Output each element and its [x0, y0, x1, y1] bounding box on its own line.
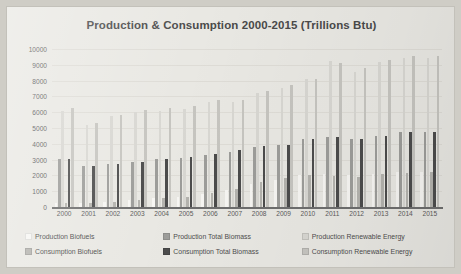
- bar-2011-consumption-renewable-energy: [339, 63, 342, 207]
- bar-2006-production-biofuels: [201, 194, 204, 207]
- y-axis-tick-0: 0: [43, 204, 47, 211]
- bar-2002-consumption-total-biomass: [117, 164, 120, 207]
- bar-2007-consumption-total-biomass: [238, 150, 241, 207]
- x-axis-tick-2009: 2009: [271, 210, 295, 224]
- x-axis-tick-2003: 2003: [125, 210, 149, 224]
- bar-2012-consumption-renewable-energy: [364, 68, 367, 207]
- x-axis-tick-2008: 2008: [247, 210, 271, 224]
- bar-2010-consumption-biofuels: [308, 175, 311, 207]
- bar-2003-production-renewable-energy: [134, 112, 137, 207]
- bar-group-2002: [101, 49, 125, 207]
- bar-2006-consumption-biofuels: [211, 193, 214, 207]
- bar-2011-production-renewable-energy: [329, 61, 332, 207]
- bar-2002-production-renewable-energy: [110, 116, 113, 207]
- bar-2013-consumption-biofuels: [381, 174, 384, 207]
- legend-swatch-icon: [25, 233, 32, 240]
- legend-label: Consumption Renewable Energy: [312, 248, 413, 255]
- legend-swatch-icon: [302, 233, 309, 240]
- bar-group-2006: [198, 49, 222, 207]
- bar-2004-consumption-total-biomass: [165, 159, 168, 207]
- bar-2015-consumption-renewable-energy: [437, 56, 440, 207]
- x-axis-tick-2001: 2001: [76, 210, 100, 224]
- bar-2011-consumption-total-biomass: [336, 137, 339, 207]
- bar-2000-production-total-biomass: [58, 159, 61, 207]
- bar-2009-consumption-biofuels: [284, 178, 287, 207]
- bar-2013-consumption-total-biomass: [385, 136, 388, 207]
- bar-2009-production-renewable-energy: [281, 88, 284, 207]
- y-axis-tick-5000: 5000: [32, 125, 47, 132]
- legend-label: Consumption Biofuels: [35, 248, 102, 255]
- y-axis-tick-1000: 1000: [32, 188, 47, 195]
- bar-2006-production-renewable-energy: [208, 102, 211, 207]
- bar-2005-production-total-biomass: [180, 158, 183, 207]
- bar-2015-production-total-biomass: [424, 132, 427, 207]
- bar-2015-consumption-total-biomass: [433, 132, 436, 207]
- bar-2008-consumption-total-biomass: [263, 146, 266, 207]
- legend-swatch-icon: [25, 248, 32, 255]
- legend-item-production-biofuels[interactable]: Production Biofuels: [25, 233, 163, 240]
- bar-2009-production-total-biomass: [277, 145, 280, 207]
- bar-2008-consumption-biofuels: [260, 182, 263, 207]
- bar-2015-consumption-biofuels: [430, 172, 433, 207]
- bar-group-2011: [320, 49, 344, 207]
- y-axis-tick-3000: 3000: [32, 156, 47, 163]
- bar-2006-consumption-renewable-energy: [217, 100, 220, 207]
- bar-2015-production-renewable-energy: [427, 58, 430, 207]
- bar-2005-consumption-renewable-energy: [193, 106, 196, 207]
- legend-item-production-total-biomass[interactable]: Production Total Biomass: [163, 233, 301, 240]
- bar-2012-production-biofuels: [347, 175, 350, 207]
- bar-2014-consumption-total-biomass: [409, 132, 412, 207]
- legend-row-production: Production BiofuelsProduction Total Biom…: [25, 229, 440, 244]
- legend-item-consumption-biofuels[interactable]: Consumption Biofuels: [25, 248, 163, 255]
- bar-2005-production-renewable-energy: [183, 109, 186, 207]
- x-axis-tick-labels: 2000200120022003200420052006200720082009…: [52, 210, 442, 224]
- legend-row-consumption: Consumption BiofuelsConsumption Total Bi…: [25, 244, 440, 259]
- bar-2002-production-total-biomass: [107, 164, 110, 207]
- bar-2010-production-biofuels: [298, 175, 301, 207]
- x-axis-tick-2007: 2007: [223, 210, 247, 224]
- x-axis-line: [52, 207, 443, 209]
- x-axis-tick-2006: 2006: [198, 210, 222, 224]
- x-axis-tick-2002: 2002: [101, 210, 125, 224]
- bar-2006-production-total-biomass: [204, 155, 207, 207]
- bar-2008-production-total-biomass: [253, 147, 256, 208]
- bar-group-2009: [271, 49, 295, 207]
- y-axis-tick-7000: 7000: [32, 93, 47, 100]
- legend-label: Consumption Total Biomass: [173, 248, 258, 255]
- bar-2014-production-biofuels: [396, 172, 399, 207]
- bar-2011-production-biofuels: [323, 174, 326, 207]
- bar-2004-consumption-renewable-energy: [169, 108, 172, 207]
- bar-2004-production-biofuels: [152, 198, 155, 207]
- x-axis-tick-2015: 2015: [418, 210, 442, 224]
- bar-2010-consumption-renewable-energy: [315, 79, 318, 207]
- bar-group-2014: [393, 49, 417, 207]
- bar-2003-consumption-renewable-energy: [144, 110, 147, 207]
- y-axis-tick-2000: 2000: [32, 172, 47, 179]
- bar-group-2013: [369, 49, 393, 207]
- bar-2003-consumption-biofuels: [138, 200, 141, 207]
- legend-item-consumption-renewable-energy[interactable]: Consumption Renewable Energy: [302, 248, 440, 255]
- bar-group-2008: [247, 49, 271, 207]
- x-axis-tick-2014: 2014: [393, 210, 417, 224]
- chart-card: Production & Consumption 2000-2015 (Tril…: [6, 6, 455, 268]
- bar-2014-production-total-biomass: [399, 132, 402, 207]
- bar-2007-production-total-biomass: [229, 152, 232, 207]
- y-axis-tick-8000: 8000: [32, 77, 47, 84]
- y-axis-tick-6000: 6000: [32, 109, 47, 116]
- bar-2005-consumption-biofuels: [186, 197, 189, 207]
- bar-2014-consumption-biofuels: [406, 173, 409, 207]
- legend-label: Production Total Biomass: [173, 233, 251, 240]
- legend-item-production-renewable-energy[interactable]: Production Renewable Energy: [302, 233, 440, 240]
- bar-group-2003: [125, 49, 149, 207]
- bar-2008-consumption-renewable-energy: [266, 91, 269, 207]
- plot-area: [52, 49, 442, 207]
- bar-2009-production-biofuels: [274, 180, 277, 207]
- x-axis-tick-2011: 2011: [320, 210, 344, 224]
- bar-2004-consumption-biofuels: [162, 198, 165, 207]
- legend-item-consumption-total-biomass[interactable]: Consumption Total Biomass: [163, 248, 301, 255]
- bar-2013-production-renewable-energy: [378, 62, 381, 207]
- bar-groups: [52, 49, 442, 207]
- bar-2002-consumption-renewable-energy: [120, 115, 123, 207]
- x-axis-tick-2004: 2004: [150, 210, 174, 224]
- y-axis-tick-4000: 4000: [32, 140, 47, 147]
